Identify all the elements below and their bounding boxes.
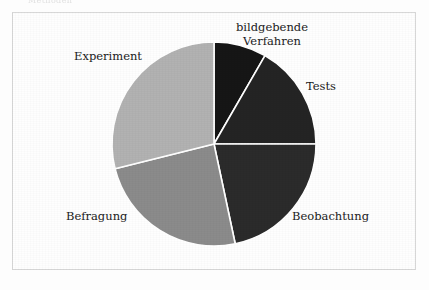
pie-label-bildgebende-line1: bildgebende: [236, 20, 308, 34]
pie-label-befragung: Befragung: [66, 209, 127, 223]
pie-label-beobachtung: Beobachtung: [292, 209, 369, 223]
pie-label-experiment: Experiment: [74, 49, 142, 63]
pie-chart: bildgebende Verfahren Tests Beobachtung …: [0, 0, 429, 290]
pie-slice-group: [112, 42, 316, 246]
pie-label-bildgebende-verfahren: bildgebende Verfahren: [218, 20, 326, 48]
pie-label-tests: Tests: [306, 79, 336, 93]
scanned-page: Methoden bildgebende Verfahren Tests Beo…: [0, 0, 429, 290]
pie-label-bildgebende-line2: Verfahren: [243, 34, 301, 48]
pie-chart-svg: [0, 0, 429, 290]
